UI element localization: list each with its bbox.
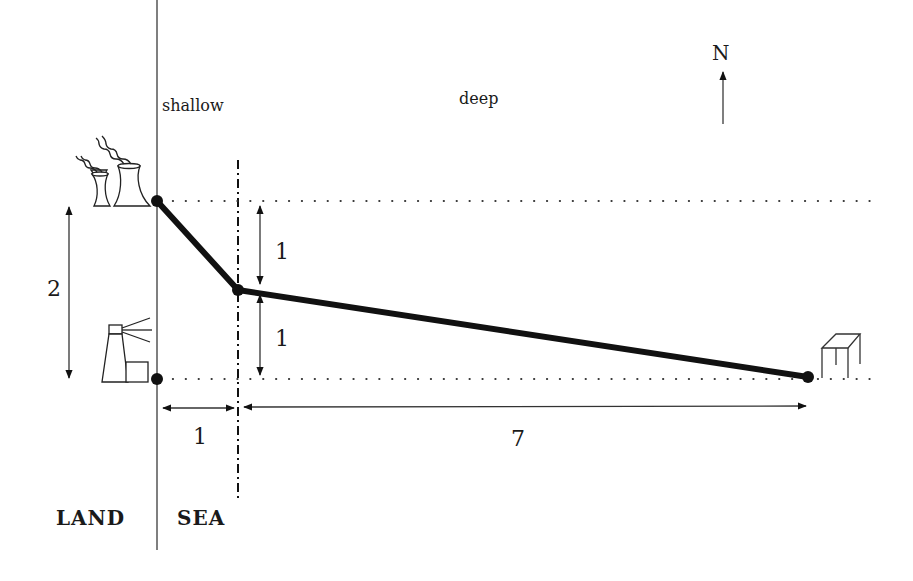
pipeline-diagram <box>0 0 913 581</box>
dimension-label-upper-vertical: 1 <box>275 241 289 263</box>
dimension-arrow-deep-horizontal <box>244 406 806 407</box>
dimension-label-shallow-horizontal: 1 <box>193 426 207 448</box>
node-power-plant <box>151 195 163 207</box>
dimension-label-lower-vertical: 1 <box>275 328 289 350</box>
deep-region-label: deep <box>459 91 498 107</box>
node-lighthouse <box>151 373 163 385</box>
power-plant-icon <box>76 136 150 206</box>
dimension-label-deep-horizontal: 7 <box>511 428 525 450</box>
dimension-label-total-vertical: 2 <box>47 278 61 300</box>
land-region-label: LAND <box>56 508 125 528</box>
node-boundary <box>232 284 244 296</box>
pipeline-route <box>157 201 808 377</box>
node-rig <box>802 371 814 383</box>
compass-north-label: N <box>712 43 730 63</box>
lighthouse-icon <box>102 318 152 382</box>
sea-region-label: SEA <box>177 508 225 528</box>
shallow-region-label: shallow <box>162 98 224 114</box>
oil-rig-icon <box>822 334 860 378</box>
